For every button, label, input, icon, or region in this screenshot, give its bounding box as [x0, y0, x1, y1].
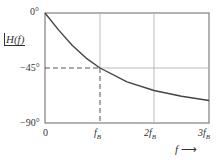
x-tick-2fb: 2fB	[144, 127, 156, 141]
x-tick-fb: fB	[94, 127, 101, 141]
x-tick-0: 0	[43, 127, 48, 138]
arrow-right-icon: ⟶	[181, 143, 197, 155]
x-axis-label: f ⟶	[175, 143, 197, 156]
x-tick-3fb: 3fB	[198, 127, 210, 141]
phase-curve	[45, 13, 209, 101]
phase-plot	[0, 0, 221, 160]
y-axis-label: H(f)	[4, 33, 25, 45]
y-tick-0: 0°	[30, 6, 39, 17]
y-tick-minus45: −45°	[20, 62, 40, 73]
y-tick-minus90: −90°	[20, 117, 40, 128]
